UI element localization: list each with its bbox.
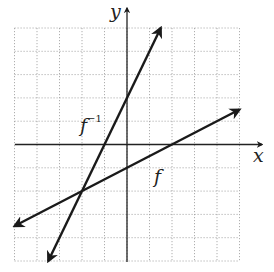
f-inverse-label-superscript: −1 bbox=[87, 113, 102, 124]
f-label: f bbox=[152, 165, 164, 187]
function-inverse-graph: x y f−1 f bbox=[0, 0, 274, 272]
f-inverse-label: f−1 bbox=[78, 113, 102, 136]
y-axis-label: y bbox=[109, 0, 121, 22]
x-axis-label: x bbox=[253, 144, 264, 166]
